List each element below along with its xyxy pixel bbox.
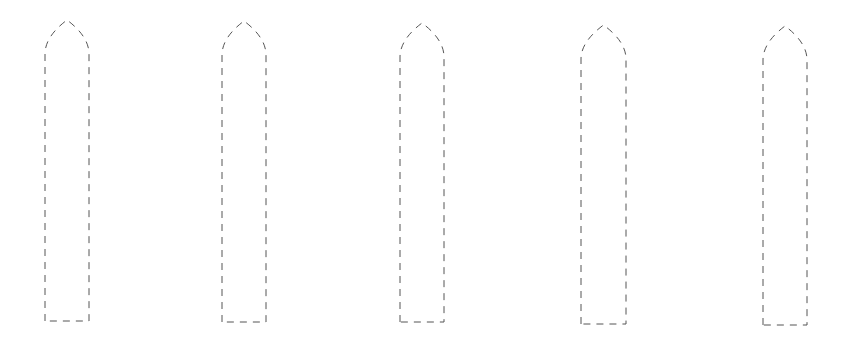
dashed-bullet-outline-2 <box>222 21 266 322</box>
dashed-bullet-outline-5 <box>763 26 807 325</box>
dashed-bullet-outline-3 <box>400 23 444 322</box>
diagram-canvas <box>0 0 847 341</box>
dashed-bullet-outline-4 <box>581 25 626 324</box>
dashed-bullet-outline-1 <box>45 20 89 321</box>
